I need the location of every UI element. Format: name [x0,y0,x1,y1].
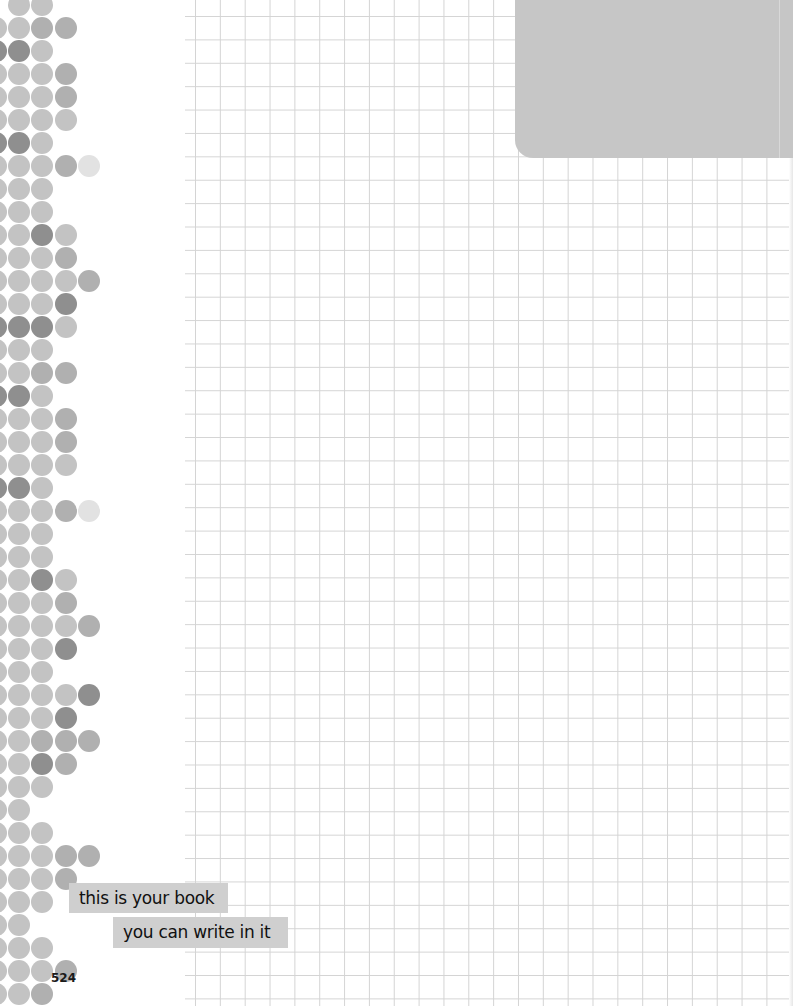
decorative-dot [0,592,7,614]
decorative-dot [31,477,53,499]
decorative-dot [8,247,30,269]
decorative-dot [31,0,53,16]
decorative-dot [31,730,53,752]
decorative-dot [0,684,7,706]
notebook-page: this is your book you can write in it 52… [0,0,793,1006]
decorative-dot [8,592,30,614]
decorative-dot [55,293,77,315]
decorative-dot [0,201,7,223]
decorative-dot [8,339,30,361]
decorative-dot [55,17,77,39]
decorative-dot [31,960,53,982]
decorative-dot [0,868,7,890]
decorative-dot [0,408,7,430]
decorative-dot [0,293,7,315]
decorative-dot [8,730,30,752]
decorative-dot [55,431,77,453]
decorative-dot [55,224,77,246]
decorative-dot [31,408,53,430]
decorative-dot [0,707,7,729]
decorative-dot [31,63,53,85]
decorative-dot [0,40,7,62]
decorative-dot [0,546,7,568]
decorative-dot [0,109,7,131]
decorative-dot [8,293,30,315]
decorative-dot [31,891,53,913]
decorative-dot [8,868,30,890]
decorative-dot [78,270,100,292]
corner-tab-block [515,0,793,158]
decorative-dot [8,316,30,338]
decorative-dot [31,592,53,614]
decorative-dot [0,63,7,85]
decorative-dot [8,86,30,108]
decorative-dot [31,937,53,959]
decorative-dot [31,155,53,177]
decorative-dot [8,178,30,200]
decorative-dot [31,523,53,545]
decorative-dot [0,86,7,108]
decorative-dot [55,753,77,775]
decorative-dot [31,454,53,476]
decorative-dot [31,868,53,890]
decorative-dot [8,17,30,39]
decorative-dot [0,799,7,821]
decorative-dot [8,845,30,867]
decorative-dot [0,822,7,844]
decorative-dot [55,109,77,131]
decorative-dot [0,615,7,637]
decorative-dot [0,960,7,982]
decorative-dot [55,454,77,476]
decorative-dot [55,638,77,660]
decorative-dot [8,40,30,62]
decorative-dot [8,477,30,499]
decorative-dot [0,454,7,476]
decorative-dot [0,270,7,292]
decorative-dot [31,707,53,729]
decorative-dot [55,684,77,706]
decorative-dot [0,661,7,683]
decorative-dot [0,17,7,39]
decorative-dot [55,500,77,522]
decorative-dot [8,270,30,292]
decorative-dot [0,431,7,453]
decorative-dot [0,362,7,384]
decorative-dot [31,293,53,315]
decorative-dot [0,132,7,154]
decorative-dot [31,638,53,660]
decorative-dot [55,592,77,614]
decorative-dot [55,730,77,752]
decorative-dot [8,799,30,821]
decorative-dot [8,546,30,568]
decorative-dot [0,983,7,1005]
decorative-dot [0,224,7,246]
decorative-dot [0,569,7,591]
decorative-dot [8,822,30,844]
decorative-dot [8,201,30,223]
decorative-dot [31,40,53,62]
decorative-dot [55,247,77,269]
decorative-dot [0,914,7,936]
decorative-dot [0,937,7,959]
decorative-dot [31,201,53,223]
decorative-dot [31,132,53,154]
decorative-dot [0,638,7,660]
decorative-dot [55,270,77,292]
decorative-dot [8,707,30,729]
page-number: 524 [51,970,76,986]
decorative-dot [55,63,77,85]
decorative-dot [8,385,30,407]
decorative-dot [78,845,100,867]
decorative-dot [31,17,53,39]
decorative-dot [31,845,53,867]
decorative-dot [31,753,53,775]
decorative-dot [8,132,30,154]
decorative-dot [31,339,53,361]
decorative-dot [0,477,7,499]
decorative-dot-border [0,0,120,1006]
decorative-dot [8,615,30,637]
decorative-dot [8,891,30,913]
decorative-dot [31,983,53,1005]
decorative-dot [0,730,7,752]
decorative-dot [0,845,7,867]
